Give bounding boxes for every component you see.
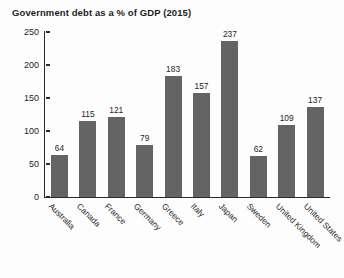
bar-value-label: 237 xyxy=(223,29,237,39)
x-axis-labels: AustraliaCanadaFranceGermanyGreeceItalyJ… xyxy=(45,198,329,278)
y-axis-tick-label: 150 xyxy=(24,93,45,103)
bar-value-label: 79 xyxy=(140,133,149,143)
bar-group: 157 xyxy=(193,32,210,197)
y-axis-tick-label: 200 xyxy=(24,60,45,70)
x-axis-tick-label: Canada xyxy=(75,201,103,229)
y-axis-tick-label: 50 xyxy=(29,159,45,169)
bar xyxy=(193,93,210,197)
bar xyxy=(250,156,267,197)
bar xyxy=(165,76,182,197)
y-axis-tick-label: 250 xyxy=(24,27,45,37)
x-axis-tick-label: Germany xyxy=(132,201,163,232)
bar-value-label: 109 xyxy=(280,113,294,123)
bar-group: 115 xyxy=(79,32,96,197)
bar xyxy=(79,121,96,197)
bar-value-label: 183 xyxy=(166,64,180,74)
bar-value-label: 64 xyxy=(55,143,64,153)
x-axis-tick-label: Sweden xyxy=(245,201,273,229)
bar-value-label: 157 xyxy=(195,81,209,91)
bar xyxy=(136,145,153,197)
x-axis-tick-label: France xyxy=(103,201,129,227)
chart-title: Government debt as a % of GDP (2015) xyxy=(12,7,191,18)
plot-area: 050100150200250 641151217918315723762109… xyxy=(45,32,329,197)
bar xyxy=(278,125,295,197)
x-axis-tick-label: Australia xyxy=(46,201,76,231)
bar-value-label: 137 xyxy=(308,95,322,105)
bar-group: 109 xyxy=(278,32,295,197)
bar xyxy=(108,117,125,197)
x-axis-tick-label: Greece xyxy=(160,201,186,227)
bar xyxy=(51,155,68,197)
bar-group: 79 xyxy=(136,32,153,197)
x-axis-tick-label: Japan xyxy=(217,201,240,224)
y-axis-tick-label: 100 xyxy=(24,126,45,136)
bar-group: 237 xyxy=(221,32,238,197)
bar-value-label: 115 xyxy=(81,109,94,119)
bar-value-label: 62 xyxy=(254,144,263,154)
bar-group: 64 xyxy=(51,32,68,197)
bar-group: 62 xyxy=(250,32,267,197)
x-axis-tick-label: Italy xyxy=(188,201,206,219)
bar-group: 137 xyxy=(307,32,324,197)
bar xyxy=(221,41,238,197)
bar-series: 641151217918315723762109137 xyxy=(45,32,329,197)
bar-chart: Government debt as a % of GDP (2015) 050… xyxy=(0,0,344,278)
bar xyxy=(307,107,324,197)
bar-group: 183 xyxy=(165,32,182,197)
y-axis-tick-label: 0 xyxy=(34,192,45,202)
bar-value-label: 121 xyxy=(109,105,123,115)
bar-group: 121 xyxy=(108,32,125,197)
